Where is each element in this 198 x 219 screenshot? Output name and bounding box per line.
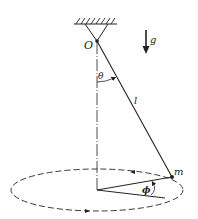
gravity-arrow-icon — [143, 30, 150, 54]
pivot-label: O — [84, 39, 93, 52]
gravity-label: g — [150, 34, 156, 45]
pendulum-diagram: O g θ l ϕ m — [0, 0, 198, 219]
reference-radius — [97, 190, 165, 198]
length-label: l — [134, 95, 137, 106]
ceiling-support — [74, 18, 117, 41]
radius-to-mass — [97, 177, 172, 190]
phi-arc — [151, 183, 155, 195]
orbit-arrow-bottom-icon — [85, 209, 90, 213]
pendulum-string — [97, 41, 172, 177]
phi-label: ϕ — [142, 185, 151, 195]
mass-label: m — [174, 166, 183, 177]
theta-label: θ — [98, 71, 104, 81]
